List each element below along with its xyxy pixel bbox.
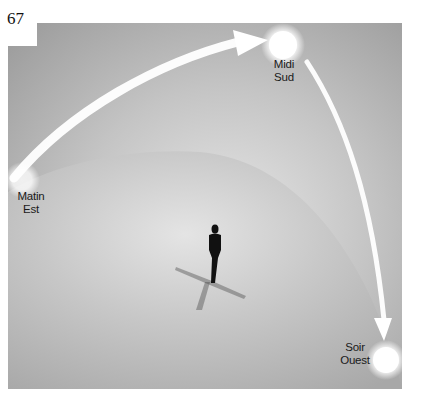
label-morning: Matin Est: [14, 190, 48, 216]
label-evening-direction: Ouest: [337, 354, 373, 367]
page-number: 67: [0, 0, 37, 23]
label-evening: Soir Ouest: [337, 341, 373, 367]
label-morning-direction: Est: [14, 203, 48, 216]
label-noon-time: Midi: [270, 58, 298, 71]
sun-path-diagram: 67 Midi Sud Matin Est Soir Ouest: [0, 0, 424, 410]
label-morning-time: Matin: [14, 190, 48, 203]
label-noon-direction: Sud: [270, 71, 298, 84]
label-evening-time: Soir: [337, 341, 373, 354]
label-noon: Midi Sud: [270, 58, 298, 84]
